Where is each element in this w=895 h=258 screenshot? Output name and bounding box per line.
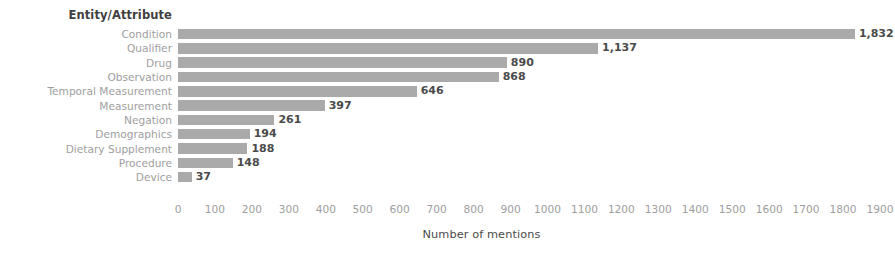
- x-axis-tick-label: 1200: [608, 200, 635, 218]
- bar-row: Observation868: [0, 70, 895, 84]
- x-axis-tick-label: 1900: [867, 200, 894, 218]
- bar-value-label: 194: [254, 127, 277, 141]
- bar-row: Temporal Measurement646: [0, 84, 895, 98]
- bar-row: Condition1,832: [0, 27, 895, 41]
- bar-category-label: Condition: [0, 27, 172, 41]
- bar-row: Procedure148: [0, 156, 895, 170]
- bar-category-label: Observation: [0, 70, 172, 84]
- x-axis-tick-label: 400: [316, 200, 336, 218]
- bar-chart: Entity/Attribute Condition1,832Qualifier…: [0, 0, 895, 258]
- x-axis-tick-label: 1400: [682, 200, 709, 218]
- bar: [178, 57, 507, 68]
- x-axis-tick-label: 1100: [571, 200, 598, 218]
- bar-value-label: 261: [278, 113, 301, 127]
- bar-category-label: Device: [0, 170, 172, 184]
- bar-category-label: Measurement: [0, 99, 172, 113]
- x-axis-tick-label: 500: [353, 200, 373, 218]
- bar-value-label: 37: [196, 170, 211, 184]
- x-axis-tick-label: 600: [390, 200, 410, 218]
- bar-value-label: 646: [421, 84, 444, 98]
- bar-value-label: 1,137: [602, 41, 637, 55]
- x-axis-tick-label: 1300: [645, 200, 672, 218]
- bar: [178, 43, 598, 54]
- bar-category-label: Qualifier: [0, 41, 172, 55]
- x-axis-tick-label: 300: [279, 200, 299, 218]
- x-axis-tick-label: 700: [427, 200, 447, 218]
- bar-value-label: 188: [251, 142, 274, 156]
- x-axis-tick-label: 200: [242, 200, 262, 218]
- x-axis-tick-label: 800: [463, 200, 483, 218]
- bar-value-label: 868: [503, 70, 526, 84]
- x-axis-tick-label: 1600: [756, 200, 783, 218]
- x-axis-tick-label: 0: [175, 200, 182, 218]
- bar-value-label: 890: [511, 56, 534, 70]
- x-axis-ticks: 0100200300400500600700800900100011001200…: [0, 200, 895, 218]
- bar-row: Device37: [0, 170, 895, 184]
- x-axis-tick-label: 900: [500, 200, 520, 218]
- bar-value-label: 148: [237, 156, 260, 170]
- x-axis-tick-label: 1800: [830, 200, 857, 218]
- x-axis-tick-label: 1000: [534, 200, 561, 218]
- bar-value-label: 1,832: [859, 27, 894, 41]
- plot-area: Condition1,832Qualifier1,137Drug890Obser…: [0, 27, 895, 199]
- x-axis-tick-label: 1500: [719, 200, 746, 218]
- bar-row: Demographics194: [0, 127, 895, 141]
- bar-row: Measurement397: [0, 99, 895, 113]
- bar: [178, 172, 192, 183]
- bar: [178, 129, 250, 140]
- bar-category-label: Procedure: [0, 156, 172, 170]
- bar: [178, 29, 855, 40]
- bar: [178, 143, 247, 154]
- bar-row: Qualifier1,137: [0, 41, 895, 55]
- bar-category-label: Demographics: [0, 127, 172, 141]
- x-axis-title-label: Number of mentions: [423, 228, 541, 241]
- bar-row: Negation261: [0, 113, 895, 127]
- bar-value-label: 397: [329, 99, 352, 113]
- bar-category-label: Negation: [0, 113, 172, 127]
- bar: [178, 100, 325, 111]
- bar-category-label: Drug: [0, 56, 172, 70]
- bar-row: Drug890: [0, 56, 895, 70]
- x-axis-tick-label: 1700: [793, 200, 820, 218]
- bar: [178, 158, 233, 169]
- bar: [178, 72, 499, 83]
- x-axis-tick-label: 100: [205, 200, 225, 218]
- bar-category-label: Dietary Supplement: [0, 142, 172, 156]
- bar: [178, 86, 417, 97]
- bar-category-label: Temporal Measurement: [0, 84, 172, 98]
- bar-row: Dietary Supplement188: [0, 142, 895, 156]
- category-axis-title: Entity/Attribute: [0, 8, 172, 22]
- x-axis-title: Number of mentions: [0, 228, 895, 241]
- bar: [178, 115, 274, 126]
